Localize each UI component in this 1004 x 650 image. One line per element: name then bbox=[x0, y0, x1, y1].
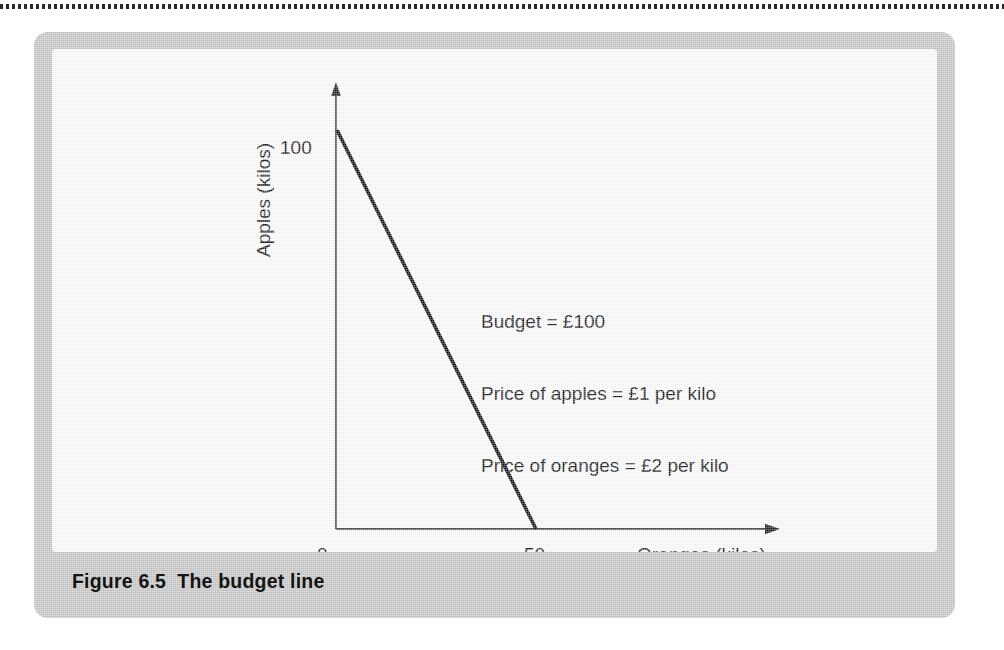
x-axis-tick-label-0: 0 bbox=[317, 544, 328, 552]
y-axis-tick-label-100: 100 bbox=[280, 137, 312, 159]
y-axis-title: Apples (kilos) bbox=[253, 57, 275, 257]
y-axis-arrow-icon bbox=[331, 82, 341, 96]
chart-plot-panel: 100 0 50 Oranges (kilos) Apples (kilos) … bbox=[52, 49, 937, 552]
page-top-dotted-rule bbox=[0, 4, 1004, 9]
annotation-line-price-apples: Price of apples = £1 per kilo bbox=[481, 382, 729, 406]
chart-annotation-block: Budget = £100 Price of apples = £1 per k… bbox=[481, 262, 729, 526]
annotation-line-price-oranges: Price of oranges = £2 per kilo bbox=[481, 454, 729, 478]
figure-caption: Figure 6.5 The budget line bbox=[72, 570, 324, 593]
y-axis bbox=[331, 82, 341, 529]
figure-frame: 100 0 50 Oranges (kilos) Apples (kilos) … bbox=[34, 32, 955, 618]
x-axis-title: Oranges (kilos) bbox=[637, 544, 766, 552]
x-axis-arrow-icon bbox=[765, 524, 780, 534]
annotation-line-budget: Budget = £100 bbox=[481, 310, 729, 334]
x-axis-tick-label-50: 50 bbox=[524, 544, 545, 552]
